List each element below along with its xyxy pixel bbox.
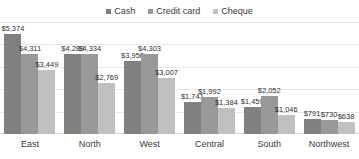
bar-value-label: $4,311 (19, 45, 41, 53)
legend-swatch-cash (106, 9, 111, 14)
legend-item-credit-card[interactable]: Credit card (148, 6, 200, 16)
bar-value-label: $791 (304, 110, 321, 118)
category-label-north: North (60, 136, 120, 152)
bar-cash[interactable]: $791 (304, 119, 321, 134)
bar-rect (244, 107, 261, 134)
legend-swatch-credit-card (148, 9, 153, 14)
bar-rect (184, 102, 201, 134)
category-label-northwest: Northwest (299, 136, 359, 152)
bar-cash[interactable]: $4,289 (64, 54, 81, 134)
bar-rect (38, 70, 55, 134)
bar-cheque[interactable]: $638 (338, 122, 355, 134)
bar-rect (64, 54, 81, 134)
bar-rect (304, 119, 321, 134)
bar-cash[interactable]: $3,950 (124, 61, 141, 134)
bar-rect (141, 54, 158, 134)
legend-label-cash: Cash (114, 6, 135, 16)
bar-cash[interactable]: $1,741 (184, 102, 201, 134)
bar-rect (338, 122, 355, 134)
plot-area: $5,374$4,311$3,449$4,289$4,334$2,769$3,9… (0, 22, 359, 134)
bar-rect (278, 115, 295, 134)
bar-value-label: $4,303 (138, 45, 161, 53)
bar-value-label: $4,334 (78, 45, 101, 53)
bar-rect (321, 120, 338, 134)
category-label-east: East (0, 136, 60, 152)
bar-value-label: $2,052 (258, 87, 281, 95)
bar-rect (98, 83, 115, 134)
bar-group: $4,289$4,334$2,769 (60, 22, 120, 134)
bar-rect (124, 61, 141, 134)
bar-value-label: $2,769 (95, 74, 118, 82)
category-label-west: West (120, 136, 180, 152)
bar-rect (81, 54, 98, 134)
bar-cheque[interactable]: $1,384 (218, 108, 235, 134)
bar-cheque[interactable]: $3,449 (38, 70, 55, 134)
bar-credit-card[interactable]: $4,303 (141, 54, 158, 134)
legend-item-cash[interactable]: Cash (106, 6, 135, 16)
bar-value-label: $638 (338, 113, 355, 121)
bar-chart: Cash Credit card Cheque $5,374$4,311$3,4… (0, 0, 359, 159)
legend-swatch-cheque (213, 9, 218, 14)
category-label-central: Central (179, 136, 239, 152)
bar-value-label: $3,449 (35, 61, 58, 69)
bar-value-label: $3,007 (155, 69, 178, 77)
legend-item-cheque[interactable]: Cheque (213, 6, 253, 16)
bar-rect (261, 96, 278, 134)
bar-group: $1,459$2,052$1,046 (239, 22, 299, 134)
bar-groups: $5,374$4,311$3,449$4,289$4,334$2,769$3,9… (0, 22, 359, 134)
bar-cheque[interactable]: $1,046 (278, 115, 295, 134)
category-label-south: South (239, 136, 299, 152)
bar-value-label: $1,384 (215, 99, 238, 107)
bar-credit-card[interactable]: $730 (321, 120, 338, 134)
bar-value-label: $730 (321, 111, 338, 119)
category-axis: EastNorthWestCentralSouthNorthwest (0, 136, 359, 152)
bar-credit-card[interactable]: $4,334 (81, 54, 98, 134)
chart-legend: Cash Credit card Cheque (0, 4, 359, 18)
legend-label-cheque: Cheque (221, 6, 253, 16)
bar-group: $3,950$4,303$3,007 (120, 22, 180, 134)
bar-value-label: $1,992 (198, 88, 221, 96)
bar-group: $791$730$638 (299, 22, 359, 134)
bar-rect (158, 78, 175, 134)
bar-value-label: $5,374 (1, 25, 24, 33)
bar-credit-card[interactable]: $2,052 (261, 96, 278, 134)
legend-label-credit-card: Credit card (156, 6, 200, 16)
bar-cash[interactable]: $1,459 (244, 107, 261, 134)
bar-group: $1,741$1,992$1,384 (179, 22, 239, 134)
bar-value-label: $1,046 (275, 106, 298, 114)
bar-cheque[interactable]: $2,769 (98, 83, 115, 134)
bar-group: $5,374$4,311$3,449 (0, 22, 60, 134)
bar-cheque[interactable]: $3,007 (158, 78, 175, 134)
bar-rect (218, 108, 235, 134)
